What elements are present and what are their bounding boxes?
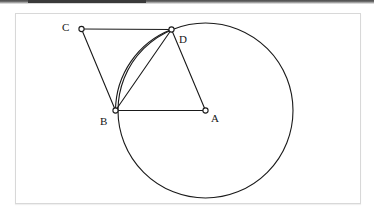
page-canvas: C D B A: [0, 0, 374, 221]
figure-frame: [15, 13, 361, 204]
vertex-label-B: B: [100, 116, 107, 127]
scan-artifact-segment: [28, 0, 146, 3]
vertex-label-C: C: [62, 22, 69, 33]
scan-artifact-band: [0, 0, 374, 4]
vertex-label-D: D: [179, 34, 187, 45]
vertex-label-A: A: [211, 113, 219, 124]
